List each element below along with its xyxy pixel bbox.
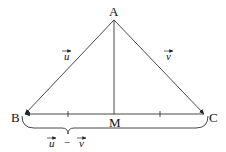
svg-text:v: v [79,137,84,149]
vector-label-u: u [62,50,71,62]
svg-text:u: u [49,137,55,149]
segment-ac [114,20,204,114]
label-a: A [109,4,119,19]
label-b: B [11,110,20,125]
triangle-diagram: A B C M u v u − v [0,0,226,152]
segment-ab [25,20,114,114]
svg-text:u: u [64,50,70,62]
label-m: M [109,115,121,130]
vector-label-v: v [164,50,173,62]
svg-text:−: − [64,136,70,148]
svg-text:v: v [166,50,171,62]
label-c: C [209,110,218,125]
vector-label-u-minus-v: u − v [47,136,86,149]
